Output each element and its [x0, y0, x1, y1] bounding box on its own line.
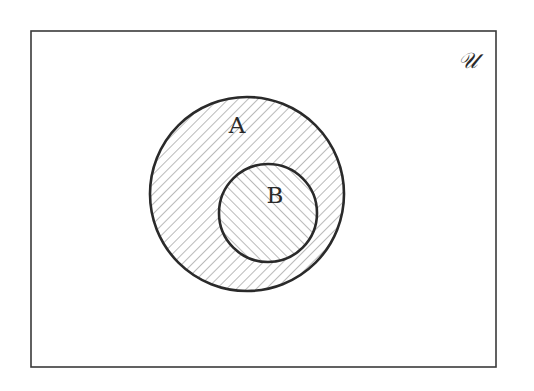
venn-diagram: A B 𝒰 [0, 0, 534, 391]
set-a-label: A [228, 112, 246, 138]
set-b-label: B [267, 182, 284, 208]
